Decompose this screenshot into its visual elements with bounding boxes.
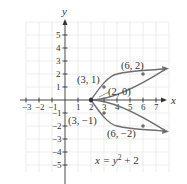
svg-text:−4: −4 — [52, 147, 62, 157]
svg-text:7: 7 — [154, 102, 159, 112]
x-axis-label: x — [170, 94, 176, 106]
svg-text:3: 3 — [102, 102, 107, 112]
point-2-0 — [89, 98, 93, 102]
svg-text:−3: −3 — [52, 134, 62, 144]
grid — [26, 22, 169, 172]
svg-text:4: 4 — [56, 43, 61, 53]
label-2-0: (2, 0) — [108, 86, 131, 98]
svg-text:−2: −2 — [52, 121, 62, 131]
x-tick-labels: −3 −2 −1 1 2 3 4 5 6 7 — [22, 102, 159, 112]
x-axis-arrow-icon — [161, 98, 167, 103]
curve-arrow-up-icon — [162, 66, 169, 72]
curve-arrow-down-icon — [162, 129, 169, 135]
svg-text:−5: −5 — [52, 160, 62, 170]
svg-text:1: 1 — [76, 102, 81, 112]
svg-text:3: 3 — [56, 56, 61, 66]
point-3-1 — [102, 85, 106, 89]
svg-text:1: 1 — [56, 82, 61, 92]
equation-label: x = y2 + 2 — [94, 153, 139, 166]
y-axis-label: y — [61, 5, 67, 17]
point-6-m2 — [141, 124, 145, 128]
svg-text:−2: −2 — [35, 102, 45, 112]
point-6-2 — [141, 72, 145, 76]
svg-text:2: 2 — [56, 69, 61, 79]
svg-text:−1: −1 — [52, 108, 62, 118]
point-3-m1 — [102, 111, 106, 115]
label-6-m2: (6, −2) — [107, 128, 136, 140]
label-3-1: (3, 1) — [77, 74, 100, 86]
label-3-m1: (3, −1) — [68, 115, 97, 127]
parabola-chart: x y −3 −2 −1 1 2 3 4 5 6 7 5 4 3 2 1 −1 … — [0, 0, 187, 184]
svg-text:6: 6 — [141, 102, 146, 112]
label-6-2: (6, 2) — [121, 60, 144, 72]
svg-text:−3: −3 — [22, 102, 32, 112]
svg-text:5: 5 — [56, 30, 61, 40]
